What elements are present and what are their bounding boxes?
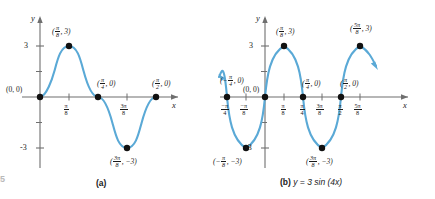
fraction: −π4 [221, 103, 230, 117]
point-label-min-neg-pi8-b: (−π8, −3) [213, 155, 242, 169]
caption-b-label: (b) [280, 177, 291, 187]
panel-a-graph: x y 3 -3 π 8 3π 8 (0, 0) (π8, 3) (π4, 0) [0, 0, 218, 199]
fraction: π4 [228, 74, 233, 88]
x-tick-label-neg-pi-4-b: −π4 [220, 103, 230, 117]
point-label-zero-pi2-b: (π2, 0) [340, 77, 359, 91]
panel-b-graph: x y 3 -3 −π4 −π8 π8 π4 3π8 π2 5π8 (−π4, … [218, 0, 435, 199]
y-tick-label-3-a: 3 [24, 41, 28, 50]
point-zero-pi-2-a [153, 94, 159, 100]
y-axis-label-a: y [31, 13, 35, 23]
fraction: π4 [305, 77, 310, 91]
fraction: π2 [343, 77, 348, 91]
fraction: π8 [55, 25, 60, 39]
point-label-origin-b: (0, 0) [243, 86, 259, 94]
y-axis-arrow [37, 16, 42, 23]
caption-b-equation: y = 3 sin (4x) [293, 177, 342, 187]
point-min-a [124, 145, 130, 151]
fraction: π2 [338, 103, 343, 117]
fraction: π2 [155, 77, 160, 91]
fraction: π 8 [64, 103, 69, 117]
caption-a-label: (a) [96, 178, 106, 188]
x-tick-label-pi-8-b: π8 [280, 103, 286, 117]
point-origin-a [37, 94, 43, 100]
x-tick-label-pi-2-b: π2 [337, 103, 343, 117]
x-axis-label-a: x [172, 100, 176, 110]
x-axis-label-b: x [403, 100, 407, 110]
y-tick-label-neg3-a: -3 [20, 143, 27, 152]
point-label-zero-pi2-a: (π2, 0) [152, 77, 171, 91]
fraction: π8 [221, 155, 226, 169]
point-label-max-a: (π8, 3) [52, 25, 71, 39]
x-tick-label-pi-4-b: π4 [299, 103, 305, 117]
fraction: 5π8 [354, 103, 362, 117]
fraction: 5π8 [353, 22, 361, 36]
fraction: π8 [279, 25, 284, 39]
caption-panel-b: (b) y = 3 sin (4x) [280, 177, 342, 187]
fraction: 3π8 [113, 155, 121, 169]
page-edge-artifact: 5 [0, 174, 5, 184]
point-label-min-3pi8-b: (3π8, −3) [306, 155, 333, 169]
x-axis-arrow [401, 94, 408, 99]
panel-a-plot [0, 0, 218, 199]
point-label-zero-pi4-a: (π4, 0) [97, 77, 116, 91]
y-axis-arrow [262, 16, 267, 23]
x-axis-arrow [171, 94, 178, 99]
fraction: π4 [100, 77, 105, 91]
fraction: π4 [300, 103, 305, 117]
point-label-zero-neg-pi4-b: (−π4, 0) [220, 74, 244, 88]
x-tick-label-pi-8-a: π 8 [63, 103, 69, 117]
point-label-max-pi8-b: (π8, 3) [276, 25, 295, 39]
point-zero-pi-4-a [95, 94, 101, 100]
point-max-a [66, 43, 72, 49]
x-tick-label-3pi-8-b: 3π8 [315, 103, 324, 117]
y-axis-label-b: y [256, 13, 260, 23]
x-tick-label-3pi-8-a: 3π 8 [119, 103, 128, 117]
fraction: 3π 8 [120, 103, 128, 117]
point-origin-b [262, 94, 268, 100]
fraction: 3π8 [316, 103, 324, 117]
point-max-5pi8-b [357, 43, 363, 49]
y-tick-label-neg3-b: -3 [245, 143, 252, 152]
point-zero-neg-pi4-b [224, 94, 230, 100]
point-zero-pi4-b [300, 94, 306, 100]
y-tick-label-3-b: 3 [249, 41, 253, 50]
fraction: −π8 [240, 103, 249, 117]
caption-panel-a: (a) [96, 178, 106, 188]
point-label-min-a: (3π8, −3) [110, 155, 137, 169]
fraction: 3π8 [309, 155, 317, 169]
point-label-zero-pi4-b: (π4, 0) [302, 77, 321, 91]
point-min-3pi8-b [319, 145, 325, 151]
point-zero-pi2-b [338, 94, 344, 100]
x-tick-label-5pi-8-b: 5π8 [353, 103, 362, 117]
point-label-origin-a: (0, 0) [6, 86, 22, 94]
fraction: π8 [281, 103, 286, 117]
figure-container: x y 3 -3 π 8 3π 8 (0, 0) (π8, 3) (π4, 0) [0, 0, 435, 199]
point-label-max-5pi8-b: (5π8, 3) [350, 22, 372, 36]
x-tick-label-neg-pi-8-b: −π8 [239, 103, 249, 117]
point-max-pi8-b [281, 43, 287, 49]
